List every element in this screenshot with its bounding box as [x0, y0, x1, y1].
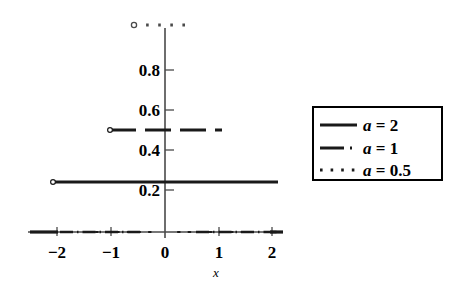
x-tick-label-neg1: −1: [102, 243, 120, 262]
y-tick-label-08: 0.8: [139, 61, 160, 80]
x-tick-label-pos1: 1: [215, 243, 224, 262]
series-a05: [131, 22, 194, 27]
series-a05-left-endpoint-marker: [131, 22, 136, 27]
legend: a = 2 a = 1 a = 0.5: [313, 107, 442, 180]
y-tick-label-02: 0.2: [139, 181, 160, 200]
x-tick-label-pos2: 2: [268, 243, 277, 262]
x-axis-title: x: [212, 265, 219, 280]
legend-label-a1: a = 1: [363, 139, 398, 158]
series-a2-left-endpoint-marker: [51, 180, 56, 185]
y-tick-label-06: 0.6: [139, 101, 160, 120]
axis-group: [28, 28, 283, 238]
y-tick-label-04: 0.4: [139, 141, 161, 160]
x-tick-label-neg2: −2: [48, 243, 66, 262]
plot-canvas: −2 −1 0 1 2 0.2 0.4 0.6 0.8 x a = 2 a = …: [0, 0, 452, 287]
chart-figure: −2 −1 0 1 2 0.2 0.4 0.6 0.8 x a = 2 a = …: [0, 0, 452, 287]
legend-label-a05: a = 0.5: [363, 161, 411, 180]
legend-label-a2: a = 2: [363, 116, 398, 135]
x-tick-label-zero: 0: [161, 243, 170, 262]
series-a1-left-endpoint-marker: [108, 128, 113, 133]
